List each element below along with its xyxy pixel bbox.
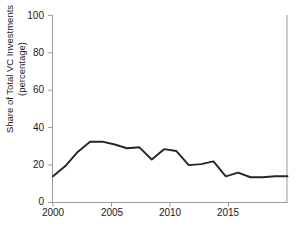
- data-series-line: [53, 142, 288, 178]
- x-axis-ticks: [53, 203, 229, 207]
- plot-area: [0, 0, 298, 229]
- axis-spines: [52, 15, 288, 203]
- chart-figure: · Share of Total VC Investments (percent…: [0, 0, 298, 229]
- y-axis-ticks: [48, 15, 53, 202]
